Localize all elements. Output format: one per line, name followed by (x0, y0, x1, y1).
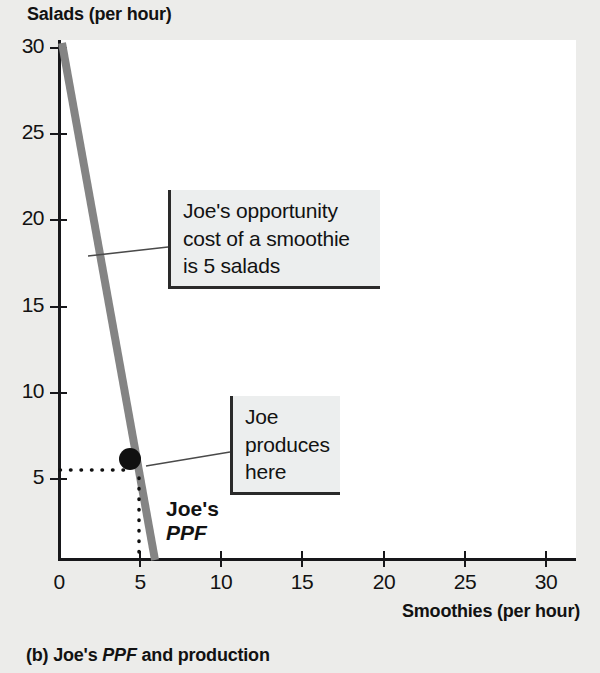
annotation-produces-here-line-1: Joe (245, 403, 330, 431)
x-axis-label-0: 0 (36, 570, 82, 594)
annotation-opportunity-cost-line-2: cost of a smoothie (183, 225, 370, 253)
figure-caption: (b) Joe's PPF and production (26, 645, 270, 666)
y-axis-tick-20 (50, 219, 67, 221)
x-axis-tick-20 (383, 551, 385, 567)
y-axis-tick-30 (50, 47, 67, 49)
x-axis-label-10: 10 (198, 570, 244, 594)
y-axis-label-5: 5 (4, 465, 44, 489)
ppf-curve-label-line-2: PPF (166, 521, 207, 544)
production-point-marker (119, 448, 141, 470)
y-axis-tick-25 (50, 133, 67, 135)
annotation-produces-here-line-3: here (245, 458, 330, 486)
figure-caption-suffix: and production (137, 645, 270, 665)
figure-caption-emphasis: PPF (102, 645, 136, 665)
y-axis-title: Salads (per hour) (27, 4, 172, 25)
y-axis-tick-10 (50, 392, 67, 394)
annotation-produces-here: Joe produces here (230, 396, 340, 495)
y-axis-tick-5 (50, 478, 67, 480)
annotation-produces-here-line-2: produces (245, 431, 330, 459)
annotation-opportunity-cost-line-1: Joe's opportunity (183, 197, 370, 225)
x-axis-label-30: 30 (523, 570, 569, 594)
x-axis-label-20: 20 (361, 570, 407, 594)
y-axis-label-10: 10 (4, 379, 44, 403)
x-axis-line (58, 558, 576, 561)
y-axis-tick-15 (50, 306, 67, 308)
ppf-curve-label-line-1: Joe's (166, 497, 219, 521)
annotation-opportunity-cost: Joe's opportunity cost of a smoothie is … (168, 190, 380, 289)
x-axis-label-25: 25 (442, 570, 488, 594)
y-axis-label-15: 15 (4, 293, 44, 317)
x-axis-tick-15 (301, 551, 303, 567)
annotation-opportunity-cost-line-3: is 5 salads (183, 252, 370, 280)
y-axis-label-30: 30 (4, 34, 44, 58)
x-axis-tick-5 (139, 551, 141, 567)
x-axis-label-15: 15 (279, 570, 325, 594)
figure-caption-prefix: (b) Joe's (26, 645, 102, 665)
x-axis-label-5: 5 (117, 570, 163, 594)
x-axis-tick-30 (545, 551, 547, 567)
x-axis-tick-10 (220, 551, 222, 567)
y-axis-line (58, 40, 61, 561)
x-axis-tick-25 (464, 551, 466, 567)
y-axis-label-25: 25 (4, 120, 44, 144)
y-axis-label-20: 20 (4, 206, 44, 230)
ppf-curve-label: Joe's PPF (166, 497, 219, 546)
x-axis-title: Smoothies (per hour) (402, 601, 580, 622)
